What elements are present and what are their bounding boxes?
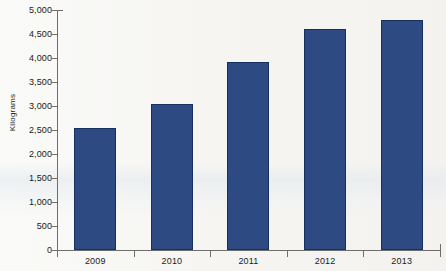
y-axis-tick-label: 1,500 [8, 173, 52, 183]
x-axis-tick-label: 2011 [210, 256, 287, 266]
x-axis-tick-mark [134, 251, 135, 257]
y-axis-tick-mark [52, 178, 57, 179]
x-axis-tick-mark [363, 251, 364, 257]
bar[interactable] [381, 20, 423, 250]
y-axis-labels: 05001,0001,5002,0002,5003,0003,5004,0004… [4, 0, 52, 271]
y-axis-tick-label: 4,500 [8, 29, 52, 39]
bar-group [363, 10, 440, 250]
x-axis-tick-mark [57, 251, 58, 257]
y-axis-tick-label: 3,500 [8, 77, 52, 87]
y-axis-tick-label: 0 [8, 245, 52, 255]
bar-group [210, 10, 287, 250]
x-axis-tick-mark [287, 251, 288, 257]
y-axis-tick-mark [52, 154, 57, 155]
x-axis-end-cap [440, 244, 441, 251]
plot-area [57, 10, 440, 250]
y-axis-tick-label: 500 [8, 221, 52, 231]
y-axis-tick-mark [52, 202, 57, 203]
x-axis-tick-label: 2009 [57, 256, 134, 266]
x-axis-tick-label: 2013 [363, 256, 440, 266]
y-axis-tick-label: 2,000 [8, 149, 52, 159]
bar-group [134, 10, 211, 250]
x-axis-tick-mark [210, 251, 211, 257]
x-axis-tick-mark [440, 251, 441, 257]
y-axis-tick-mark [52, 130, 57, 131]
y-axis-tick-mark [52, 34, 57, 35]
bar[interactable] [151, 104, 193, 250]
y-axis-tick-label: 2,500 [8, 125, 52, 135]
y-axis-tick-label: 5,000 [8, 5, 52, 15]
bar-group [287, 10, 364, 250]
x-axis-tick-label: 2012 [287, 256, 364, 266]
y-axis-tick-label: 4,000 [8, 53, 52, 63]
y-axis-tick-mark [52, 58, 57, 59]
x-axis-line [57, 250, 440, 251]
y-axis-top-cap [57, 10, 63, 11]
y-axis-tick-label: 1,000 [8, 197, 52, 207]
bar-group [57, 10, 134, 250]
bar[interactable] [304, 29, 346, 250]
y-axis-tick-mark [52, 106, 57, 107]
bar-chart: Kilograms 05001,0001,5002,0002,5003,0003… [0, 0, 446, 271]
x-axis-tick-label: 2010 [134, 256, 211, 266]
bar[interactable] [74, 128, 116, 250]
y-axis-tick-label: 3,000 [8, 101, 52, 111]
bar[interactable] [227, 62, 269, 250]
y-axis-tick-mark [52, 226, 57, 227]
y-axis-tick-mark [52, 82, 57, 83]
